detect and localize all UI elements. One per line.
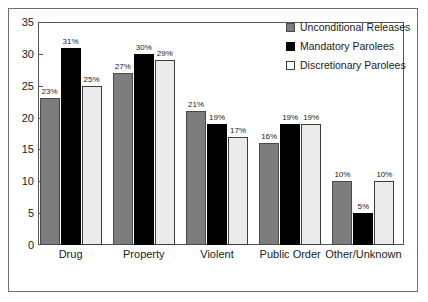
bar — [259, 143, 279, 245]
bar — [280, 124, 300, 245]
legend-label: Unconditional Releases — [300, 22, 410, 33]
bar — [134, 54, 154, 245]
bar — [353, 213, 373, 245]
bar-value-label: 29% — [152, 50, 178, 58]
bar — [155, 60, 175, 245]
bar-group: 21%19%17% — [186, 22, 248, 245]
bar-value-label: 10% — [329, 171, 355, 179]
y-axis-tick-label: 0 — [28, 240, 34, 251]
x-axis-category-label: Other/Unknown — [325, 249, 401, 260]
bar-value-label: 27% — [110, 63, 136, 71]
bar-value-label: 5% — [350, 203, 376, 211]
chart-legend: Unconditional ReleasesMandatory Parolees… — [286, 18, 410, 75]
legend-swatch-icon — [286, 23, 295, 32]
bar — [40, 98, 60, 245]
bar — [374, 181, 394, 245]
bar-group: 23%31%25% — [40, 22, 102, 245]
x-axis-category-label: Property — [123, 249, 165, 260]
y-axis-tick-label: 30 — [22, 48, 34, 59]
y-axis-tick-label: 15 — [22, 144, 34, 155]
bar — [301, 124, 321, 245]
bar-group: 27%30%29% — [113, 22, 175, 245]
bar-value-label: 17% — [225, 127, 251, 135]
y-axis-tick-label: 10 — [22, 176, 34, 187]
chart-figure: 05101520253035 23%31%25%27%30%29%21%19%1… — [0, 0, 428, 302]
x-axis-category-label: Drug — [59, 249, 83, 260]
bar-value-label: 31% — [58, 38, 84, 46]
bar-value-label: 10% — [371, 171, 397, 179]
y-axis-labels: 05101520253035 — [8, 22, 34, 245]
y-axis-tick-label: 35 — [22, 17, 34, 28]
bar-value-label: 16% — [256, 133, 282, 141]
legend-label: Discretionary Parolees — [300, 60, 406, 71]
x-axis-labels: DrugPropertyViolentPublic OrderOther/Unk… — [38, 249, 404, 265]
bar — [113, 73, 133, 245]
bar — [332, 181, 352, 245]
bar — [82, 86, 102, 245]
bar — [207, 124, 227, 245]
bar-value-label: 19% — [298, 114, 324, 122]
bar — [61, 48, 81, 246]
y-axis-tick-label: 25 — [22, 80, 34, 91]
bar-value-label: 21% — [183, 101, 209, 109]
y-axis-tick-label: 20 — [22, 112, 34, 123]
legend-item: Unconditional Releases — [286, 18, 410, 37]
legend-label: Mandatory Parolees — [300, 41, 394, 52]
x-axis-category-label: Violent — [200, 249, 233, 260]
bar-value-label: 25% — [79, 76, 105, 84]
legend-item: Discretionary Parolees — [286, 56, 410, 75]
x-axis-category-label: Public Order — [260, 249, 321, 260]
bar-value-label: 23% — [37, 88, 63, 96]
bar — [186, 111, 206, 245]
legend-swatch-icon — [286, 61, 295, 70]
bar — [228, 137, 248, 245]
y-axis-tick-label: 5 — [28, 208, 34, 219]
legend-item: Mandatory Parolees — [286, 37, 410, 56]
bar-value-label: 19% — [204, 114, 230, 122]
legend-swatch-icon — [286, 42, 295, 51]
